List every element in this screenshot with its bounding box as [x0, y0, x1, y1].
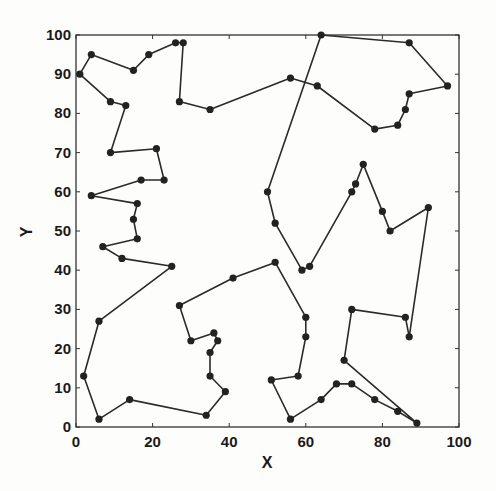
tour-node-marker [348, 306, 355, 313]
x-tick-label: 40 [221, 433, 238, 450]
tour-node-marker [287, 75, 294, 82]
x-tick-label: 80 [374, 433, 391, 450]
tour-node-marker [203, 412, 210, 419]
tour-node-marker [348, 188, 355, 195]
y-tick-label: 60 [54, 183, 71, 200]
tour-node-marker [80, 372, 87, 379]
plot-area-border [76, 35, 459, 427]
tour-node-marker [222, 388, 229, 395]
tour-node-marker [130, 216, 137, 223]
y-tick-label: 90 [54, 65, 71, 82]
y-tick-label: 0 [63, 418, 71, 435]
tour-node-marker [138, 176, 145, 183]
tour-node-marker [298, 267, 305, 274]
tour-node-marker [394, 122, 401, 129]
x-axis-label: X [262, 454, 273, 471]
y-axis-label: Y [18, 226, 35, 237]
tour-node-marker [402, 106, 409, 113]
tour-node-marker [306, 263, 313, 270]
tour-node-marker [172, 39, 179, 46]
tour-node-marker [107, 98, 114, 105]
tour-node-marker [88, 192, 95, 199]
y-tick-label: 80 [54, 104, 71, 121]
x-tick-label: 0 [72, 433, 80, 450]
x-tick-label: 60 [297, 433, 314, 450]
tour-node-marker [287, 416, 294, 423]
tour-node-marker [406, 333, 413, 340]
tour-node-marker [272, 220, 279, 227]
tour-node-marker [386, 227, 393, 234]
tour-node-marker [318, 396, 325, 403]
tour-node-marker [318, 31, 325, 38]
tour-node-marker [268, 376, 275, 383]
tour-node-marker [206, 106, 213, 113]
tour-chart: 020406080100 0102030405060708090100 X Y [0, 0, 496, 491]
y-tick-label: 30 [54, 300, 71, 317]
tour-node-marker [145, 51, 152, 58]
tour-node-marker [160, 176, 167, 183]
tour-node-marker [272, 259, 279, 266]
tour-node-marker [118, 255, 125, 262]
tour-node-marker [402, 314, 409, 321]
tour-node-marker [88, 51, 95, 58]
tour-node-marker [126, 396, 133, 403]
tour-node-marker [99, 243, 106, 250]
tour-node-marker [406, 90, 413, 97]
tour-node-marker [187, 337, 194, 344]
tour-node-marker [180, 39, 187, 46]
tour-node-marker [95, 416, 102, 423]
tour-node-marker [122, 102, 129, 109]
tour-node-marker [95, 318, 102, 325]
y-tick-label: 40 [54, 261, 71, 278]
tour-node-marker [264, 188, 271, 195]
tour-node-marker [206, 349, 213, 356]
tour-nodes [76, 31, 451, 426]
tour-node-marker [130, 67, 137, 74]
tour-node-marker [229, 274, 236, 281]
tour-node-marker [444, 82, 451, 89]
tour-node-marker [214, 337, 221, 344]
x-tick-label: 20 [144, 433, 161, 450]
x-axis-ticks: 020406080100 [72, 35, 472, 450]
tour-node-marker [379, 208, 386, 215]
tour-node-marker [394, 408, 401, 415]
tour-node-marker [134, 200, 141, 207]
x-tick-label: 100 [446, 433, 471, 450]
tour-node-marker [168, 263, 175, 270]
tour-node-marker [371, 125, 378, 132]
tour-node-marker [302, 333, 309, 340]
tour-node-marker [413, 419, 420, 426]
tour-node-marker [134, 235, 141, 242]
y-tick-label: 100 [46, 26, 71, 43]
tour-node-marker [333, 380, 340, 387]
y-tick-label: 70 [54, 144, 71, 161]
tour-node-marker [302, 314, 309, 321]
tour-node-marker [107, 149, 114, 156]
tour-node-marker [341, 357, 348, 364]
y-tick-label: 10 [54, 379, 71, 396]
tour-node-marker [206, 372, 213, 379]
y-axis-ticks: 0102030405060708090100 [46, 26, 459, 435]
y-tick-label: 50 [54, 222, 71, 239]
tour-node-marker [176, 98, 183, 105]
tour-node-marker [314, 82, 321, 89]
y-tick-label: 20 [54, 340, 71, 357]
tour-node-marker [76, 71, 83, 78]
tour-node-marker [371, 396, 378, 403]
tour-node-marker [210, 329, 217, 336]
plot-frame [76, 35, 459, 427]
tour-node-marker [360, 161, 367, 168]
tour-node-marker [176, 302, 183, 309]
tour-node-marker [295, 372, 302, 379]
tour-node-marker [406, 39, 413, 46]
tour-node-marker [348, 380, 355, 387]
tour-node-marker [153, 145, 160, 152]
tour-node-marker [352, 180, 359, 187]
tour-node-marker [425, 204, 432, 211]
